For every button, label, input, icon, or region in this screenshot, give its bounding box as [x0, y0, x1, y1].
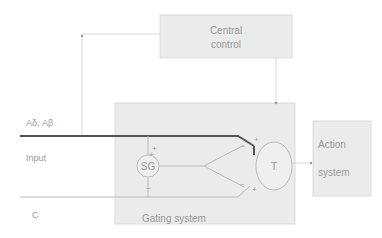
- plus-sign: +: [254, 135, 259, 144]
- t-cell: T: [256, 142, 292, 190]
- minus-sign: –: [241, 142, 245, 149]
- gate-control-diagram: Central control Gating system Action sys…: [0, 0, 382, 238]
- central-control-line1: Central: [210, 25, 242, 36]
- plus-sign: +: [149, 150, 154, 159]
- action-system-box: Action system: [313, 121, 371, 196]
- action-system-line1: Action: [318, 139, 346, 150]
- arrowhead-dot: [275, 102, 278, 105]
- gating-system-label: Gating system: [142, 213, 206, 224]
- arrowhead-dot: [310, 162, 312, 164]
- sg-label: SG: [141, 161, 156, 172]
- arrowhead-dot: [81, 35, 83, 37]
- central-control-box: Central control: [160, 15, 292, 58]
- t-label: T: [271, 161, 277, 172]
- input-label: Input: [26, 153, 47, 163]
- large-fiber-label: Aδ, Aβ: [26, 118, 53, 128]
- minus-sign: –: [240, 180, 244, 187]
- central-control-line2: control: [211, 39, 241, 50]
- plus-sign: +: [252, 185, 257, 194]
- action-system-line2: system: [318, 167, 350, 178]
- small-fiber-label: C: [32, 210, 39, 220]
- minus-sign: –: [146, 183, 151, 192]
- sg-cell: SG: [137, 155, 159, 177]
